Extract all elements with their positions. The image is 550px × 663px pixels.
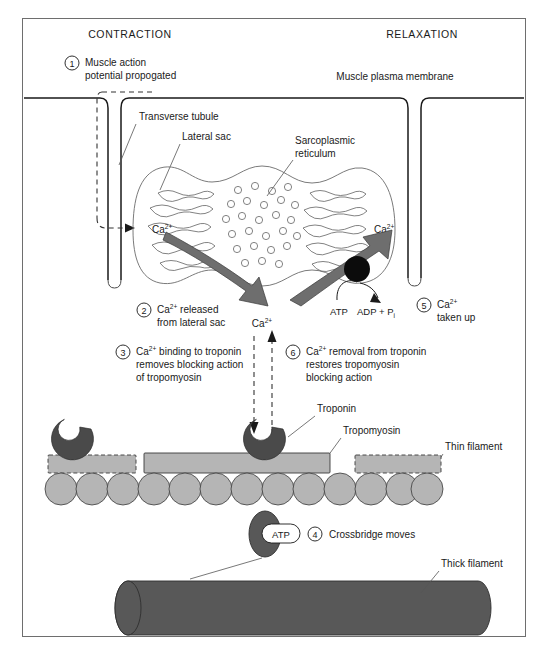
step-3-number: 3 (120, 348, 125, 358)
step-2-number: 2 (141, 306, 146, 316)
step-5-line-2: taken up (437, 312, 476, 323)
troponin-label: Troponin (317, 403, 356, 414)
step-6-line-1: Ca2+ removal from troponin (306, 345, 426, 357)
figure-stage: CONTRACTION RELAXATION 1 Muscle action p… (0, 0, 550, 663)
t-tubule-right-tip (408, 278, 421, 286)
sr-cisterna-l1 (158, 191, 214, 202)
plasma-membrane-right (421, 98, 524, 278)
step-3-line-2: removes blocking action (136, 359, 243, 370)
muscle-plasma-membrane-label: Muscle plasma membrane (336, 71, 454, 82)
atp-hydrolysis-arrowhead (370, 293, 381, 303)
thick-filament-body (115, 581, 491, 635)
sr-cisterna-r1 (310, 191, 366, 202)
reticulum-label: reticulum (295, 148, 336, 159)
sr-vesicle-group (222, 182, 300, 267)
thick-filament-label: Thick filament (441, 558, 503, 569)
sr-cisterna-l2 (150, 205, 213, 217)
step-6-line-2: restores tropomyosin (306, 359, 399, 370)
actin-bead-row (45, 473, 443, 505)
transverse-tubule-label: Transverse tubule (139, 111, 219, 122)
sr-cisterna-r3 (303, 225, 366, 237)
thick-filament-cap (115, 581, 141, 635)
step-4-line-1: Crossbridge moves (329, 529, 415, 540)
atp-label: ATP (330, 306, 348, 317)
ca-removal-arrowhead-up (268, 330, 277, 342)
step-2-line-2: from lateral sac (157, 317, 225, 328)
crossbridge-neck (190, 558, 262, 579)
step-6-line-3: blocking action (306, 372, 372, 383)
muscle-contraction-diagram: CONTRACTION RELAXATION 1 Muscle action p… (0, 0, 550, 663)
calcium-pump-icon (344, 256, 370, 282)
plasma-membrane-left (24, 98, 108, 280)
t-tubule-left-tip (108, 280, 121, 288)
step-4-number: 4 (312, 530, 317, 540)
cytosol-ca-label: Ca2+ (252, 317, 272, 329)
atp-capsule-label: ATP (272, 529, 290, 540)
t-tubule-right-outer-wall (400, 98, 408, 278)
troponin-leader (288, 416, 315, 437)
step-5-line-1: Ca2+ (437, 298, 457, 310)
step-1-line-2: potential propogated (85, 70, 176, 81)
step-2-line-1: Ca2+ released (157, 303, 218, 315)
tropomyosin-label: Tropomyosin (343, 425, 400, 436)
step-3-line-3: of tropomyosin (136, 372, 202, 383)
sr-cisterna-r2 (304, 207, 367, 219)
thin-filament-label: Thin filament (445, 441, 502, 452)
tropomyosin-segment-left (48, 455, 136, 473)
lateral-sac-label: Lateral sac (182, 131, 231, 142)
contraction-heading: CONTRACTION (88, 28, 172, 40)
tropomyosin-segment-right (355, 455, 441, 473)
step-1-line-1: Muscle action (85, 57, 146, 68)
step-3-line-1: Ca2+ binding to troponin (136, 345, 241, 357)
adp-pi-label: ADP + Pi (357, 306, 396, 319)
step-6-number: 6 (290, 348, 295, 358)
tropomyosin-segment-center (144, 453, 330, 473)
t-tubule-left-inner-wall (121, 98, 400, 280)
lateral-sac-ca-label: Ca2+ (152, 223, 172, 235)
relaxation-heading: RELAXATION (386, 28, 458, 40)
sarcoplasmic-label: Sarcoplasmic (295, 135, 355, 146)
action-potential-path-down (97, 92, 102, 218)
step-1-number: 1 (69, 59, 74, 69)
step-5-number: 5 (421, 301, 426, 311)
